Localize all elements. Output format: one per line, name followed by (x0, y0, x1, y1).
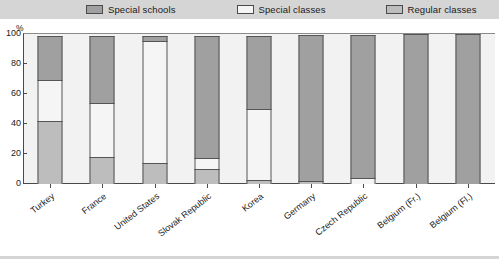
x-axis-labels: TurkeyFranceUnited StatesSlovak Republic… (24, 189, 494, 255)
stacked-bar[interactable] (403, 33, 428, 183)
chart-plot-wrapper: % 100806040200 TurkeyFranceUnited States… (0, 19, 499, 259)
y-tick-label: 0 (1, 178, 21, 188)
x-tick-mark (207, 184, 208, 188)
bar-segment[interactable] (38, 121, 63, 184)
x-tick-mark (259, 184, 260, 188)
y-tick-mark (23, 153, 27, 154)
bar-segment[interactable] (90, 157, 115, 184)
x-tick-mark (102, 184, 103, 188)
bar-slot (442, 33, 494, 183)
legend-item-special-schools: Special schools (86, 0, 176, 19)
bar-slot (181, 33, 233, 183)
x-label-slot: Turkey (24, 189, 76, 255)
y-axis: 100806040200 (0, 33, 21, 183)
legend-swatch-icon (86, 5, 103, 14)
bar-segment[interactable] (38, 80, 63, 122)
x-tick-mark (468, 184, 469, 188)
bar-segment[interactable] (142, 41, 167, 164)
bar-segment[interactable] (90, 103, 115, 159)
x-tick-mark (416, 184, 417, 188)
bar-slot (24, 33, 76, 183)
bar-segment[interactable] (299, 35, 324, 182)
bar-group (24, 33, 494, 183)
bar-segment[interactable] (90, 36, 115, 104)
bar-segment[interactable] (455, 34, 480, 184)
bar-segment[interactable] (38, 36, 63, 81)
x-label-slot: Belgium (Fl.) (442, 189, 494, 255)
stacked-bar[interactable] (142, 33, 167, 183)
x-tick-mark (363, 184, 364, 188)
bar-slot (128, 33, 180, 183)
bar-segment[interactable] (246, 109, 271, 181)
bar-segment[interactable] (403, 34, 428, 184)
x-label-slot: Slovak Republic (181, 189, 233, 255)
stacked-bar[interactable] (194, 33, 219, 183)
bar-slot (233, 33, 285, 183)
x-label-slot: Korea (233, 189, 285, 255)
stacked-bar[interactable] (455, 33, 480, 183)
bar-slot (390, 33, 442, 183)
x-tick-label: Turkey (29, 191, 57, 216)
x-tick-label: Korea (240, 191, 265, 214)
bar-segment[interactable] (194, 36, 219, 159)
y-tick-label: 80 (1, 58, 21, 68)
chart-legend: Special schools Special classes Regular … (0, 0, 499, 19)
y-tick-label: 20 (1, 148, 21, 158)
stacked-bar[interactable] (351, 33, 376, 183)
y-tick-mark (23, 93, 27, 94)
bar-segment[interactable] (142, 163, 167, 184)
bar-segment[interactable] (194, 169, 219, 184)
bar-segment[interactable] (246, 36, 271, 110)
y-tick-mark (23, 123, 27, 124)
x-tick-mark (155, 184, 156, 188)
y-tick-label: 60 (1, 88, 21, 98)
stacked-bar[interactable] (246, 33, 271, 183)
stacked-bar[interactable] (299, 33, 324, 183)
y-tick-label: 100 (1, 28, 21, 38)
stacked-bar[interactable] (38, 33, 63, 183)
x-tick-label: Germany (282, 191, 317, 222)
legend-item-regular-classes: Regular classes (386, 0, 477, 19)
legend-swatch-icon (237, 5, 254, 14)
bar-slot (337, 33, 389, 183)
bar-slot (285, 33, 337, 183)
legend-item-special-classes: Special classes (237, 0, 326, 19)
legend-swatch-icon (386, 5, 403, 14)
legend-label: Special schools (108, 4, 176, 15)
y-tick-label: 40 (1, 118, 21, 128)
x-tick-mark (50, 184, 51, 188)
bar-slot (76, 33, 128, 183)
x-tick-mark (311, 184, 312, 188)
legend-label: Regular classes (408, 4, 477, 15)
stacked-bar[interactable] (90, 33, 115, 183)
y-tick-mark (23, 63, 27, 64)
legend-label: Special classes (259, 4, 326, 15)
bar-segment[interactable] (351, 35, 376, 179)
x-tick-label: France (80, 191, 108, 216)
